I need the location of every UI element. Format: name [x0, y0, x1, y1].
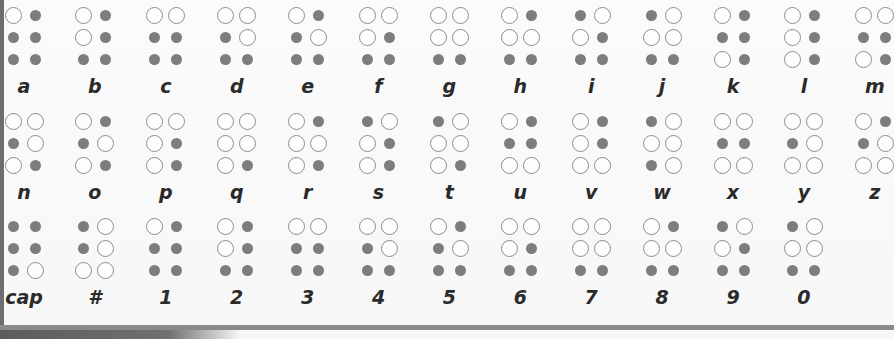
- raised-dot-icon: [381, 240, 398, 257]
- raised-dot-icon: [430, 157, 447, 174]
- raised-dot-icon: [594, 7, 611, 24]
- flat-dot-icon: [787, 265, 798, 276]
- raised-dot-icon: [523, 218, 540, 235]
- raised-dot-icon: [359, 157, 376, 174]
- flat-dot-icon: [739, 138, 750, 149]
- flat-dot-icon: [362, 265, 373, 276]
- raised-dot-icon: [381, 218, 398, 235]
- flat-dot-icon: [646, 10, 657, 21]
- flat-dot-icon: [526, 138, 537, 149]
- raised-dot-icon: [501, 240, 518, 257]
- braille-chart: abcdefghijklmnopqrstuvwxyzcap#1234567890: [0, 0, 894, 339]
- braille-cell-label: n: [0, 181, 54, 203]
- flat-dot-icon: [30, 32, 41, 43]
- raised-dot-icon: [665, 240, 682, 257]
- flat-dot-icon: [242, 160, 253, 171]
- flat-dot-icon: [171, 138, 182, 149]
- flat-dot-icon: [809, 10, 820, 21]
- flat-dot-icon: [787, 138, 798, 149]
- raised-dot-icon: [572, 240, 589, 257]
- raised-dot-icon: [572, 218, 589, 235]
- flat-dot-icon: [526, 116, 537, 127]
- raised-dot-icon: [714, 240, 731, 257]
- raised-dot-icon: [501, 7, 518, 24]
- raised-dot-icon: [27, 262, 44, 279]
- braille-cell: u: [490, 113, 550, 213]
- raised-dot-icon: [736, 113, 753, 130]
- raised-dot-icon: [594, 157, 611, 174]
- braille-cell: l: [774, 7, 834, 107]
- raised-dot-icon: [643, 135, 660, 152]
- raised-dot-icon: [217, 135, 234, 152]
- raised-dot-icon: [784, 157, 801, 174]
- flat-dot-icon: [455, 160, 466, 171]
- flat-dot-icon: [597, 116, 608, 127]
- braille-cell: z: [845, 113, 894, 213]
- braille-cell: #: [65, 218, 125, 318]
- raised-dot-icon: [381, 113, 398, 130]
- flat-dot-icon: [880, 32, 891, 43]
- braille-cell: f: [349, 7, 409, 107]
- flat-dot-icon: [809, 265, 820, 276]
- raised-dot-icon: [452, 240, 469, 257]
- braille-cell: b: [65, 7, 125, 107]
- braille-cell: d: [207, 7, 267, 107]
- flat-dot-icon: [313, 160, 324, 171]
- flat-dot-icon: [149, 32, 160, 43]
- braille-cell-label: p: [136, 181, 196, 203]
- flat-dot-icon: [717, 138, 728, 149]
- flat-dot-icon: [149, 265, 160, 276]
- braille-cell: 0: [774, 218, 834, 318]
- flat-dot-icon: [8, 54, 19, 65]
- flat-dot-icon: [220, 54, 231, 65]
- braille-cell-label: y: [774, 181, 834, 203]
- braille-cell: c: [136, 7, 196, 107]
- braille-cell: cap: [0, 218, 54, 318]
- raised-dot-icon: [665, 7, 682, 24]
- braille-cell: e: [278, 7, 338, 107]
- flat-dot-icon: [78, 138, 89, 149]
- raised-dot-icon: [501, 218, 518, 235]
- braille-cell-label: 2: [207, 286, 267, 308]
- raised-dot-icon: [452, 135, 469, 152]
- flat-dot-icon: [504, 54, 515, 65]
- braille-cell: p: [136, 113, 196, 213]
- braille-cell: v: [561, 113, 621, 213]
- braille-cell: n: [0, 113, 54, 213]
- flat-dot-icon: [717, 32, 728, 43]
- flat-dot-icon: [858, 138, 869, 149]
- raised-dot-icon: [27, 135, 44, 152]
- raised-dot-icon: [430, 218, 447, 235]
- raised-dot-icon: [97, 262, 114, 279]
- flat-dot-icon: [597, 138, 608, 149]
- braille-cell-label: o: [65, 181, 125, 203]
- braille-cell-label: a: [0, 75, 54, 97]
- raised-dot-icon: [452, 113, 469, 130]
- braille-cell: s: [349, 113, 409, 213]
- braille-cell: 3: [278, 218, 338, 318]
- raised-dot-icon: [430, 7, 447, 24]
- flat-dot-icon: [242, 54, 253, 65]
- braille-cell: k: [703, 7, 763, 107]
- flat-dot-icon: [362, 54, 373, 65]
- raised-dot-icon: [572, 113, 589, 130]
- raised-dot-icon: [75, 7, 92, 24]
- braille-cell-label: d: [207, 75, 267, 97]
- flat-dot-icon: [880, 54, 891, 65]
- flat-dot-icon: [8, 32, 19, 43]
- raised-dot-icon: [714, 7, 731, 24]
- flat-dot-icon: [455, 265, 466, 276]
- raised-dot-icon: [736, 218, 753, 235]
- raised-dot-icon: [381, 7, 398, 24]
- flat-dot-icon: [433, 243, 444, 254]
- flat-dot-icon: [291, 265, 302, 276]
- flat-dot-icon: [291, 243, 302, 254]
- raised-dot-icon: [146, 135, 163, 152]
- raised-dot-icon: [288, 7, 305, 24]
- flat-dot-icon: [171, 243, 182, 254]
- braille-cell-label: z: [845, 181, 894, 203]
- flat-dot-icon: [880, 116, 891, 127]
- flat-dot-icon: [384, 32, 395, 43]
- raised-dot-icon: [572, 135, 589, 152]
- flat-dot-icon: [739, 32, 750, 43]
